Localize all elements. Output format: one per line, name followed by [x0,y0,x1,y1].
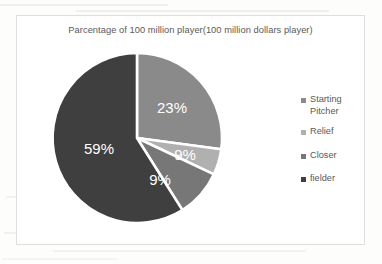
pie-label-starting-pitcher: 23% [157,99,187,116]
legend-label-closer: Closer [310,150,337,162]
chart-frame: Parcentage of 100 million player(100 mil… [16,15,365,245]
legend-label-fielder: fielder [310,173,335,185]
legend-item-fielder[interactable]: fielder [301,173,367,185]
legend-swatch-icon [301,98,306,103]
chart-legend: Starting Pitcher Relief Closer fielder [301,94,367,194]
legend-item-starting-pitcher[interactable]: Starting Pitcher [301,94,367,117]
legend-item-closer[interactable]: Closer [301,150,367,162]
pie-chart: 23% 9% 9% 59% [47,48,227,228]
legend-item-relief[interactable]: Relief [301,126,367,138]
pie-label-relief: 9% [174,146,196,163]
legend-swatch-icon [301,130,306,135]
pie-label-fielder: 59% [84,140,114,157]
legend-swatch-icon [301,154,306,159]
legend-swatch-icon [301,177,306,182]
pie-label-closer: 9% [149,171,171,188]
plot-area: 23% 9% 9% 59% Starting Pitcher Relief Cl… [17,16,366,246]
legend-label-relief: Relief [310,126,334,138]
legend-label-starting-pitcher: Starting Pitcher [310,94,367,117]
